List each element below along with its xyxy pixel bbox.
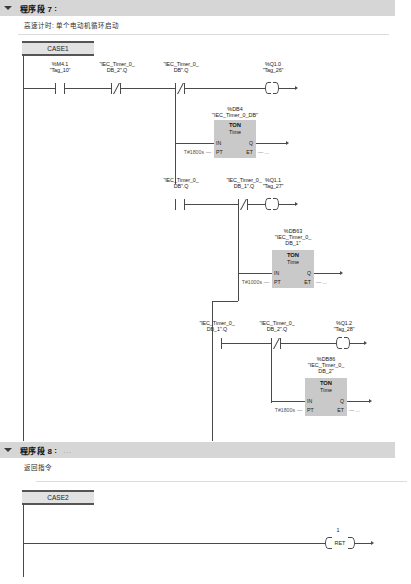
network-8-colon: :: [54, 446, 57, 455]
rung2-wire-seg3: [279, 204, 295, 205]
timer1-q-wire: [256, 143, 286, 144]
rung1-contact1-label: %M4.1 "Tag_10": [40, 61, 80, 73]
rung3-contact1-label: "IEC_Timer_0_ DB_1".Q: [188, 320, 246, 332]
rung2-output-label: %Q1.1 "Tag_27": [247, 177, 299, 189]
network-8-divider: [36, 481, 407, 482]
rung2-wire-seg2: [248, 204, 265, 205]
collapse-triangle-icon[interactable]: [4, 6, 12, 10]
rung1-end-arrow-icon: [295, 86, 298, 90]
timer2-pin-et: ET: [304, 279, 311, 285]
rung3-wire-seg2: [281, 343, 336, 344]
network8-end-wire: [355, 543, 371, 544]
rung3-wire-seg1: [222, 343, 271, 344]
rung3-end-arrow-icon: [364, 341, 367, 345]
timer2-pt-dash: —: [264, 279, 269, 285]
network-7-colon: :: [54, 4, 57, 13]
timer3-q-wire: [347, 401, 369, 402]
network-8-title: 程序段 8: [20, 445, 52, 456]
timer2-pin-pt: PT: [274, 279, 281, 285]
rung1-output-label: %Q1.0 "Tag_26": [247, 61, 299, 73]
timer3-pt-dash: —: [297, 407, 302, 413]
rung2-output-coil-q11[interactable]: [265, 198, 279, 210]
rung1-wire-seg3: [121, 88, 175, 89]
network-7-title: 程序段 7: [20, 3, 52, 14]
network8-rung-wire: [23, 543, 325, 544]
timer1-pt-value: T#1800s: [160, 149, 204, 155]
case1-label-text: CASE1: [47, 45, 68, 52]
rung1-branch-down: [175, 88, 176, 184]
rung1-contact3-label: "IEC_Timer_0_ DB".Q: [152, 61, 210, 73]
timer3-pin-q: Q: [340, 398, 344, 404]
timer3-caption: %DB86 "IEC_Timer_0_ DB_2": [283, 356, 369, 375]
timer3-pt-value: T#1800s: [251, 407, 295, 413]
ret-coil[interactable]: RET: [325, 537, 355, 549]
timer2-et-dash: — ...: [316, 279, 327, 285]
timer3-pin-et: ET: [337, 407, 344, 413]
rung1-wire-seg2: [65, 88, 111, 89]
timer1-pin-et: ET: [246, 149, 253, 155]
timer3-ton-block[interactable]: TON Time IN PT Q ET: [305, 378, 347, 416]
timer2-q-wire: [314, 273, 340, 274]
rung3-left-branch: [212, 301, 213, 441]
rung1-contact2-label: "IEC_Timer_0_ DB_2".Q: [88, 61, 146, 73]
timer2-in-wire: [238, 273, 272, 274]
collapse-triangle-icon-2[interactable]: [4, 448, 12, 452]
timer3-pin-in: IN: [307, 398, 312, 404]
rung2-wire-seg1: [185, 204, 238, 205]
case2-label-box[interactable]: CASE2: [22, 490, 94, 505]
case1-label-box[interactable]: CASE1: [22, 41, 94, 56]
network-7-header[interactable]: 程序段 7 :: [0, 0, 395, 16]
rung3-wire-seg3: [350, 343, 364, 344]
timer2-pt-value: T#1000s: [218, 279, 262, 285]
timer1-pin-in: IN: [216, 140, 221, 146]
timer2-q-arrow-icon: [340, 271, 343, 275]
timer3-q-arrow-icon: [369, 399, 372, 403]
network-8-header[interactable]: 程序段 8 : ...: [0, 442, 395, 458]
rung3-output-label: %Q1.2 "Tag_28": [318, 320, 370, 332]
timer1-pin-pt: PT: [216, 149, 223, 155]
left-power-rail-network-8: [23, 505, 24, 577]
timer1-caption: %DB4 "IEC_Timer_0_DB": [192, 106, 278, 118]
timer1-header: TON Time: [214, 122, 256, 136]
timer2-pin-in: IN: [274, 270, 279, 276]
rung3-branch-join: [212, 301, 238, 302]
network-7-divider: [18, 34, 389, 35]
timer2-pin-q: Q: [307, 270, 311, 276]
rung1-wire-seg4: [185, 88, 265, 89]
rung3-output-coil-q12[interactable]: [336, 337, 350, 349]
rung1-output-coil-q10[interactable]: [265, 82, 279, 94]
timer1-et-dash: — ...: [258, 149, 269, 155]
timer1-pt-dash: —: [206, 149, 211, 155]
network8-end-arrow-icon: [371, 541, 374, 545]
network-8-comment: 返回指令: [0, 458, 411, 476]
rung2-branch-down: [238, 204, 239, 301]
ret-coil-label: RET: [325, 540, 355, 546]
rung3-contact2-label: "IEC_Timer_0_ DB_2".Q: [248, 320, 306, 332]
rung3-branch-down: [271, 343, 272, 403]
network-7-comment: 高速计时: 单个电动机循环启动: [0, 16, 395, 34]
rung1-wire-seg1: [23, 88, 55, 89]
timer1-pin-q: Q: [249, 140, 253, 146]
timer1-in-wire: [175, 143, 214, 144]
rung1-wire-seg5: [279, 88, 295, 89]
left-power-rail-network-7: [23, 56, 24, 441]
network-8-dots: ...: [63, 447, 72, 454]
timer3-et-dash: — ...: [349, 407, 360, 413]
timer2-caption: %DB63 "IEC_Timer_0_ DB_1": [250, 228, 336, 247]
timer3-pin-pt: PT: [307, 407, 314, 413]
rung2-contact1-label: "IEC_Timer_0_ DB".Q: [152, 177, 210, 189]
case2-label-text: CASE2: [47, 494, 68, 501]
timer1-ton-block[interactable]: TON Time IN PT Q ET: [214, 120, 256, 158]
rung2-end-arrow-icon: [295, 202, 298, 206]
timer3-in-wire: [271, 401, 305, 402]
timer3-header: TON Time: [305, 380, 347, 394]
timer2-ton-block[interactable]: TON Time IN PT Q ET: [272, 250, 314, 288]
timer2-header: TON Time: [272, 252, 314, 266]
timer1-q-arrow-icon: [286, 141, 289, 145]
ret-value-label: 1: [330, 527, 346, 533]
